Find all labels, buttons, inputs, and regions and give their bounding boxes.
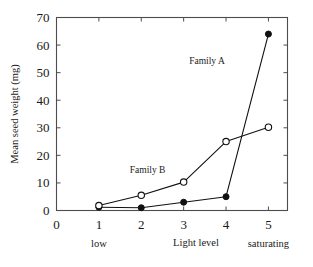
series-line-family-b (99, 127, 269, 205)
data-point-family-a-2 (138, 205, 144, 211)
plot-frame (57, 18, 288, 211)
data-point-family-a-3 (181, 199, 187, 205)
data-point-family-b-5 (265, 124, 271, 130)
x-tick-label: 0 (53, 217, 60, 232)
y-tick-label: 50 (37, 65, 50, 80)
data-point-family-b-4 (223, 138, 229, 144)
x-axis-tick-labels: 012345 (53, 217, 271, 232)
y-tick-label: 20 (37, 148, 50, 163)
line-chart: 010203040506070 012345 Family AFamily B … (0, 0, 313, 267)
data-point-family-b-3 (180, 179, 186, 185)
y-axis-ticks (57, 18, 288, 211)
y-tick-label: 30 (37, 120, 50, 135)
annotation-family-b: Family B (130, 165, 166, 175)
y-tick-label: 0 (43, 203, 50, 218)
y-tick-label: 60 (37, 38, 50, 53)
category-label-saturating: saturating (248, 238, 290, 249)
x-axis-ticks (57, 18, 269, 211)
y-axis-title: Mean seed weight (mg) (9, 64, 21, 164)
figure-caption (0, 258, 313, 267)
y-tick-label: 10 (37, 175, 50, 190)
data-point-family-b-2 (138, 192, 144, 198)
data-series-layer (96, 31, 272, 211)
x-tick-label: 3 (180, 217, 187, 232)
x-tick-label: 1 (96, 217, 103, 232)
annotation-family-a: Family A (189, 56, 225, 66)
x-tick-label: 4 (223, 217, 230, 232)
data-point-family-a-4 (223, 194, 229, 200)
category-label-low: low (91, 238, 107, 249)
data-point-family-b-1 (96, 202, 102, 208)
x-tick-label: 2 (138, 217, 145, 232)
figure-container: 010203040506070 012345 Family AFamily B … (0, 0, 313, 267)
x-tick-label: 5 (265, 217, 272, 232)
y-axis-tick-labels: 010203040506070 (37, 10, 50, 218)
x-axis-title: Light level (173, 237, 219, 248)
data-point-family-a-5 (265, 31, 271, 37)
series-annotations: Family AFamily B (130, 56, 225, 175)
y-tick-label: 70 (37, 10, 50, 25)
y-tick-label: 40 (37, 93, 50, 108)
